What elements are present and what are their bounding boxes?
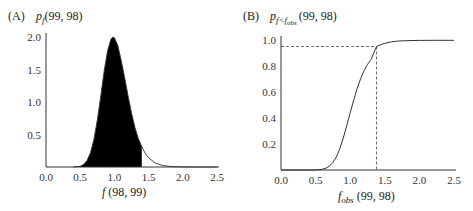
y-tick-labels: 0.20.40.60.81.0: [262, 34, 276, 150]
y-tick-labels: 0.51.01.52.0: [27, 31, 41, 141]
panel-b-label: (B): [243, 9, 259, 23]
y-tick-label: 1.0: [262, 34, 276, 46]
y-tick-label: 0.5: [27, 129, 41, 141]
x-tick-labels: 0.00.51.01.52.02.5: [274, 174, 461, 186]
y-tick-label: 0.2: [262, 138, 276, 150]
panel-b-xlabel: fobs (99, 98): [338, 189, 395, 205]
panel-a-label: (A): [8, 9, 25, 23]
y-tick-label: 2.0: [27, 31, 41, 43]
panel-a: (A) pf(99, 98) 0.00.51.01.52.02.5 0.51.0…: [8, 9, 224, 199]
shaded-area: [73, 37, 141, 167]
x-tick-label: 1.0: [343, 174, 357, 186]
x-tick-label: 1.0: [108, 171, 122, 183]
panel-b: (B) pf<fobs(99, 98) 0.00.51.01.52.02.5 0…: [243, 9, 461, 205]
x-tick-label: 0.0: [274, 174, 288, 186]
panel-a-xlabel: f (98, 99): [102, 185, 146, 199]
panel-b-ylabel: pf<fobs(99, 98): [269, 9, 337, 27]
y-tick-label: 1.5: [27, 64, 41, 76]
figure: (A) pf(99, 98) 0.00.51.01.52.02.5 0.51.0…: [0, 0, 473, 211]
y-tick-label: 0.8: [262, 60, 276, 72]
x-tick-label: 0.5: [309, 174, 323, 186]
y-tick-label: 0.4: [262, 112, 276, 124]
x-tick-label: 2.0: [413, 174, 427, 186]
x-tick-label: 2.0: [176, 171, 190, 183]
panel-a-ylabel: pf(99, 98): [35, 9, 83, 25]
y-tick-label: 1.0: [27, 96, 41, 108]
x-tick-label: 1.5: [142, 171, 156, 183]
cdf-curve: [281, 40, 454, 170]
x-tick-label: 2.5: [447, 174, 461, 186]
x-tick-label: 0.5: [73, 171, 87, 183]
x-tick-label: 2.5: [210, 171, 224, 183]
y-tick-label: 0.6: [262, 86, 276, 98]
x-tick-label: 0.0: [39, 171, 53, 183]
x-tick-label: 1.5: [378, 174, 392, 186]
x-tick-labels: 0.00.51.01.52.02.5: [39, 171, 224, 183]
